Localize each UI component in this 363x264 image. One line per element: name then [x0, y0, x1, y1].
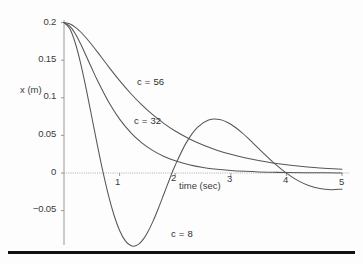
curve-c32 — [64, 23, 342, 173]
series-label-c56: c = 56 — [137, 76, 164, 87]
x-axis-title: time (sec) — [179, 180, 221, 191]
series-label-c8: c = 8 — [171, 228, 193, 239]
y-tick-label-1: 0.15 — [12, 53, 56, 64]
y-tick-label-5: −0.05 — [12, 203, 56, 214]
y-tick-label-4: 0 — [12, 166, 56, 177]
x-tick-label-3: 4 — [283, 174, 288, 185]
curve-group — [64, 23, 342, 247]
figure-container: 0.2 0.15 0.1 0.05 0 −0.05 x (m) 1 2 3 4 … — [0, 0, 363, 264]
bottom-rule — [8, 251, 355, 254]
y-tick-label-3: 0.05 — [12, 128, 56, 139]
curve-c8 — [64, 23, 342, 247]
x-tick-label-1: 2 — [171, 172, 176, 183]
y-axis-title: x (m) — [20, 84, 42, 95]
series-label-c32: c = 32 — [134, 115, 161, 126]
y-tick-label-0: 0.2 — [12, 16, 56, 27]
x-tick-label-4: 5 — [339, 176, 344, 187]
x-tick-label-0: 1 — [115, 176, 120, 187]
x-tick-label-2: 3 — [227, 173, 232, 184]
